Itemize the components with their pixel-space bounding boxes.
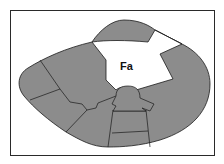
diagram-canvas: Fa — [0, 0, 224, 164]
fa-label: Fa — [120, 60, 133, 72]
cross-section-diagram — [0, 0, 224, 164]
